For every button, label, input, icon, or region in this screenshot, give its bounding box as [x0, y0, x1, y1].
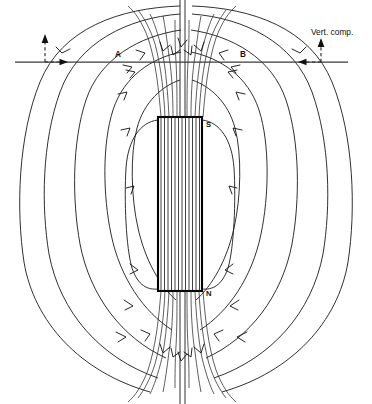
label-pole-north: N	[206, 289, 211, 298]
label-point-b: B	[240, 50, 246, 59]
magnetic-field-figure: A B S N Vert. comp.	[0, 0, 372, 404]
magnet-rectangle	[158, 117, 202, 291]
label-pole-south: S	[206, 120, 211, 129]
field-diagram-svg: A B S N Vert. comp.	[0, 0, 372, 404]
arrowheads-top	[136, 38, 228, 60]
flux-lines-bottom	[128, 291, 236, 404]
arrowheads-bottom	[141, 330, 223, 361]
arrowheads-left-loops	[116, 92, 138, 342]
field-loops-left	[20, 6, 181, 392]
label-point-a: A	[115, 50, 121, 59]
field-loops-right	[191, 6, 352, 392]
component-arrows-left	[42, 34, 68, 65]
label-vertical-component: Vert. comp.	[311, 27, 353, 37]
